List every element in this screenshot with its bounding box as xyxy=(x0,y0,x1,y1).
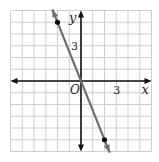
y-axis-label: y xyxy=(68,10,77,25)
x-axis-label: x xyxy=(142,82,150,97)
data-point xyxy=(55,20,60,25)
origin-label: O xyxy=(70,83,80,97)
data-point xyxy=(102,137,107,142)
y-tick-label: 3 xyxy=(71,40,78,53)
x-axis-arrow-left-icon xyxy=(11,78,18,84)
y-axis-arrow-up-icon xyxy=(78,11,84,18)
x-tick-label: 3 xyxy=(113,84,120,97)
coordinate-plane: x y O 3 3 xyxy=(0,0,159,162)
y-axis-arrow-down-icon xyxy=(78,145,84,152)
